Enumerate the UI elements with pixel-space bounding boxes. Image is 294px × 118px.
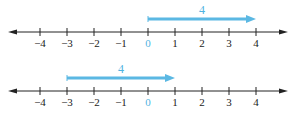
tick-label: 0 [145, 96, 151, 108]
tick-label: 2 [199, 37, 205, 49]
tick-label: −3 [61, 96, 73, 108]
left-arrowhead-icon [8, 30, 17, 35]
tick-label: 2 [199, 96, 205, 108]
tick-label: −2 [88, 37, 100, 49]
tick-label: −3 [61, 37, 73, 49]
tick-label: 3 [226, 96, 232, 108]
number-line-bottom: −4−3−2−1012344 [8, 62, 288, 108]
right-arrowhead-icon [279, 89, 288, 94]
vector-arrowhead-icon [246, 15, 256, 23]
vector-length-label: 4 [118, 62, 124, 76]
tick-label: −1 [115, 96, 127, 108]
tick-label: −1 [115, 37, 127, 49]
tick-label: −2 [88, 96, 100, 108]
tick-label: 1 [172, 37, 178, 49]
right-arrowhead-icon [279, 30, 288, 35]
tick-label: 0 [145, 37, 151, 49]
vector-arrowhead-icon [165, 74, 175, 82]
tick-label: 4 [253, 96, 259, 108]
number-line-top: −4−3−2−1012344 [8, 3, 288, 49]
tick-label: 3 [226, 37, 232, 49]
number-line-diagram: −4−3−2−1012344−4−3−2−1012344 [0, 0, 294, 118]
tick-label: −4 [34, 96, 46, 108]
vector-length-label: 4 [199, 3, 205, 17]
left-arrowhead-icon [8, 89, 17, 94]
tick-label: −4 [34, 37, 46, 49]
tick-label: 4 [253, 37, 259, 49]
tick-label: 1 [172, 96, 178, 108]
